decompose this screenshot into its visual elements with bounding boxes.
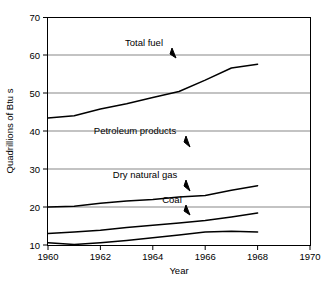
series-label-petroleum-products: Petroleum products	[94, 125, 177, 136]
y-tick-label-10: 10	[29, 240, 40, 251]
y-tick-label-60: 60	[29, 50, 40, 61]
x-tick-label-1970: 1970	[299, 251, 320, 262]
x-tick-label-1966: 1966	[195, 251, 216, 262]
x-tick-label-1962: 1962	[90, 251, 111, 262]
chart-background	[0, 0, 330, 281]
y-axis-title: Quadrillions of Btu s	[4, 88, 15, 173]
y-tick-label-30: 30	[29, 164, 40, 175]
series-label-coal: Coal	[162, 194, 182, 205]
x-tick-label-1960: 1960	[37, 251, 58, 262]
y-tick-label-50: 50	[29, 88, 40, 99]
chart-container: 70 60 50 40 30 20 10 Quadrillions of Btu…	[0, 0, 330, 281]
y-tick-label-40: 40	[29, 126, 40, 137]
y-tick-label-70: 70	[29, 12, 40, 23]
x-axis-title: Year	[169, 265, 188, 276]
series-label-dry-natural-gas: Dry natural gas	[113, 169, 178, 180]
x-tick-label-1968: 1968	[247, 251, 268, 262]
x-tick-label-1964: 1964	[142, 251, 163, 262]
series-label-total-fuel: Total fuel	[125, 37, 163, 48]
energy-consumption-line-chart: 70 60 50 40 30 20 10 Quadrillions of Btu…	[0, 0, 330, 281]
y-tick-label-20: 20	[29, 202, 40, 213]
